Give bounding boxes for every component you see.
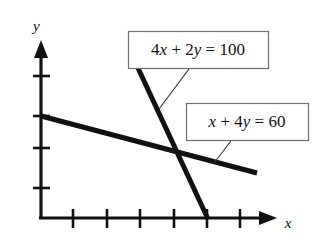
callout-1-coef-2: 2: [185, 40, 194, 59]
callout-1-equals: =: [201, 40, 219, 59]
y-axis-label: y: [31, 18, 40, 34]
leader-line-callout-2: [214, 141, 231, 163]
leader-line-callout-1: [159, 69, 189, 109]
callout-2-equals: =: [250, 112, 268, 131]
callout-2-equation: x + 4y = 60: [208, 112, 286, 131]
callout-2-operator: +: [216, 112, 234, 131]
y-axis: [34, 40, 48, 219]
callout-1-equation: 4x + 2y = 100: [151, 40, 245, 59]
callout-2-var-2: y: [241, 112, 251, 131]
callout-line-2[interactable]: x + 4y = 60: [187, 104, 309, 141]
coordinate-plane: y x 4x + 2y = 100 x + 4y = 60: [0, 0, 314, 252]
callout-1-rhs: 100: [219, 40, 245, 59]
callout-1-operator: +: [167, 40, 185, 59]
callout-2-rhs: 60: [268, 112, 285, 131]
x-axis-arrowhead: [259, 211, 277, 225]
callout-1-var-2: y: [192, 40, 202, 59]
callout-line-1[interactable]: 4x + 2y = 100: [129, 32, 269, 69]
y-axis-arrowhead: [34, 40, 48, 58]
graph-figure: y x 4x + 2y = 100 x + 4y = 60: [0, 0, 314, 252]
x-axis-label: x: [284, 215, 292, 231]
